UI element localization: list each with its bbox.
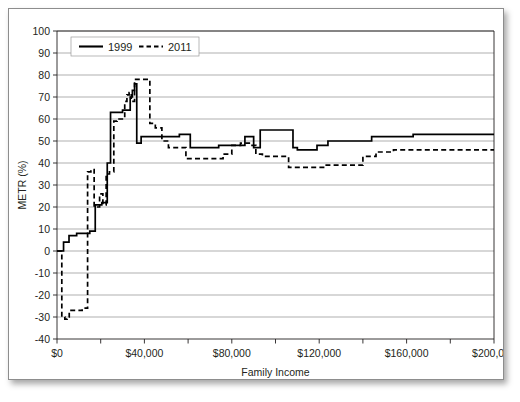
y-tick-label--30: -30 xyxy=(35,311,50,323)
y-axis-tick-labels: -40-30-20-100102030405060708090100 xyxy=(32,25,50,345)
chart-legend: 19992011 xyxy=(71,37,199,56)
x-axis-tick-labels: $0$40,000$80,000$120,000$160,000$200,000 xyxy=(51,347,503,359)
series-1999 xyxy=(57,84,494,251)
y-tick-label-10: 10 xyxy=(38,223,50,235)
y-tick-label-20: 20 xyxy=(38,201,50,213)
y-tick-label-60: 60 xyxy=(38,113,50,125)
y-axis-ticks xyxy=(53,31,57,339)
x-axis-title: Family Income xyxy=(241,366,309,378)
x-axis-ticks xyxy=(57,339,494,344)
metr-line-chart: -40-30-20-100102030405060708090100 $0$40… xyxy=(9,9,503,379)
y-tick-label-80: 80 xyxy=(38,69,50,81)
y-tick-label--40: -40 xyxy=(35,333,50,345)
y-axis-title: METR (%) xyxy=(16,161,28,210)
x-tick-label-160000: $160,000 xyxy=(385,347,429,359)
series-group xyxy=(57,79,494,319)
y-tick-label-30: 30 xyxy=(38,179,50,191)
x-tick-label-120000: $120,000 xyxy=(297,347,341,359)
y-tick-label-90: 90 xyxy=(38,47,50,59)
figure-card: -40-30-20-100102030405060708090100 $0$40… xyxy=(8,8,504,380)
y-tick-label-40: 40 xyxy=(38,157,50,169)
x-tick-label-40000: $40,000 xyxy=(125,347,163,359)
legend-label-2011: 2011 xyxy=(168,41,192,53)
y-tick-label-50: 50 xyxy=(38,135,50,147)
figure-root: -40-30-20-100102030405060708090100 $0$40… xyxy=(0,0,520,402)
y-tick-label-0: 0 xyxy=(44,245,50,257)
gridlines xyxy=(57,31,494,317)
x-tick-label-80000: $80,000 xyxy=(213,347,251,359)
y-tick-label-70: 70 xyxy=(38,91,50,103)
series-2011 xyxy=(57,79,494,319)
y-tick-label-100: 100 xyxy=(32,25,50,37)
y-tick-label--20: -20 xyxy=(35,289,50,301)
y-tick-label--10: -10 xyxy=(35,267,50,279)
legend-label-1999: 1999 xyxy=(108,41,132,53)
x-tick-label-0: $0 xyxy=(51,347,63,359)
x-tick-label-200000: $200,000 xyxy=(472,347,503,359)
